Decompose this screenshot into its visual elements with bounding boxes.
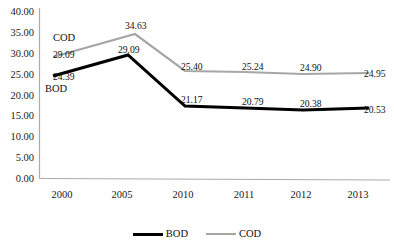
data-label-bod: 20.38 xyxy=(300,99,322,109)
data-label-bod: 21.17 xyxy=(181,95,203,105)
legend-swatch-bod-icon xyxy=(133,233,163,236)
data-label-cod: 25.24 xyxy=(242,62,264,72)
chart-legend: BOD COD xyxy=(0,224,394,244)
data-label-cod: 25.40 xyxy=(181,62,203,72)
legend-swatch-cod-icon xyxy=(206,233,236,235)
data-label-cod: 29.09 xyxy=(53,50,75,60)
data-label-bod: 29.09 xyxy=(118,45,140,55)
line-chart: 40.00 35.00 30.00 25.00 20.00 15.00 10.0… xyxy=(0,0,394,249)
legend-label-cod: COD xyxy=(239,229,261,240)
data-label-cod: 24.95 xyxy=(364,69,386,79)
data-label-cod: 24.90 xyxy=(300,63,322,73)
legend-label-bod: BOD xyxy=(166,229,188,240)
series-annotation-bod: BOD xyxy=(45,84,67,95)
legend-entry-bod: BOD xyxy=(133,229,188,240)
data-label-cod: 34.63 xyxy=(125,21,147,31)
data-label-bod: 20.53 xyxy=(364,105,386,115)
series-annotation-cod: COD xyxy=(53,33,75,44)
legend-entry-cod: COD xyxy=(206,229,261,240)
x-axis-line xyxy=(40,179,391,181)
data-label-bod: 24.39 xyxy=(53,72,75,82)
data-label-bod: 20.79 xyxy=(242,97,264,107)
